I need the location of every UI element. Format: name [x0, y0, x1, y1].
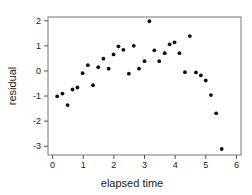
data-point	[178, 51, 182, 55]
data-point	[183, 70, 187, 74]
x-tick-label: 3	[142, 160, 147, 170]
x-tick-label: 2	[111, 160, 116, 170]
data-points	[55, 19, 223, 151]
x-tick-label: 0	[50, 160, 55, 170]
x-axis-label: elapsed time	[101, 177, 163, 189]
y-tick-label: 2	[36, 16, 41, 26]
data-point	[204, 79, 208, 83]
x-tick-label: 5	[203, 160, 208, 170]
data-point	[127, 72, 131, 76]
data-point	[214, 111, 218, 115]
y-tick-label: -1	[33, 91, 41, 101]
data-point	[143, 59, 147, 63]
data-point	[86, 63, 90, 67]
x-tick-label: 6	[234, 160, 239, 170]
data-point	[55, 94, 59, 98]
data-point	[91, 83, 95, 87]
data-point	[66, 103, 70, 107]
y-axis: -3-2-1012	[33, 16, 48, 151]
data-point	[148, 19, 152, 23]
data-point	[112, 52, 116, 56]
y-tick-label: -3	[33, 141, 41, 151]
data-point	[107, 67, 111, 71]
data-point	[132, 44, 136, 48]
y-tick-label: 0	[36, 66, 41, 76]
data-point	[81, 71, 85, 75]
data-point	[76, 86, 80, 90]
data-point	[121, 48, 125, 52]
data-point	[220, 147, 224, 151]
data-point	[152, 48, 156, 52]
data-point	[194, 71, 198, 75]
data-point	[96, 65, 100, 69]
x-axis: 0123456	[50, 155, 239, 170]
data-point	[173, 40, 177, 44]
data-point	[163, 51, 167, 55]
data-point	[71, 88, 75, 92]
data-point	[168, 42, 172, 46]
data-point	[188, 34, 192, 38]
data-point	[209, 93, 213, 97]
data-point	[137, 67, 141, 71]
x-tick-label: 4	[173, 160, 178, 170]
data-point	[157, 59, 161, 63]
data-point	[199, 74, 203, 78]
x-tick-label: 1	[81, 160, 86, 170]
data-point	[102, 57, 106, 61]
y-tick-label: -2	[33, 116, 41, 126]
data-point	[60, 92, 64, 96]
scatter-chart: 0123456 -3-2-1012 elapsed time residual	[0, 0, 252, 195]
data-point	[117, 44, 121, 48]
y-tick-label: 1	[36, 41, 41, 51]
y-axis-label: residual	[6, 67, 18, 106]
